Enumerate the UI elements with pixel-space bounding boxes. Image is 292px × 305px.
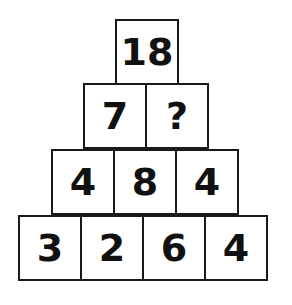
pyramid-cell: 4 [204,215,268,281]
pyramid-cell: 4 [175,149,239,215]
pyramid-row-2: 7 ? [83,83,209,149]
pyramid-row-4: 3 2 6 4 [18,215,268,281]
pyramid-cell: 8 [113,149,177,215]
pyramid-cell: 6 [142,215,206,281]
pyramid-cell: 2 [80,215,144,281]
pyramid-row-3: 4 8 4 [51,149,239,215]
pyramid-row-1: 18 [115,19,179,85]
pyramid-cell: 3 [18,215,82,281]
number-pyramid: 18 7 ? 4 8 4 3 2 6 4 [0,0,292,305]
pyramid-cell: 18 [115,19,179,85]
pyramid-cell: 4 [51,149,115,215]
pyramid-cell-unknown: ? [145,83,209,149]
pyramid-cell: 7 [83,83,147,149]
